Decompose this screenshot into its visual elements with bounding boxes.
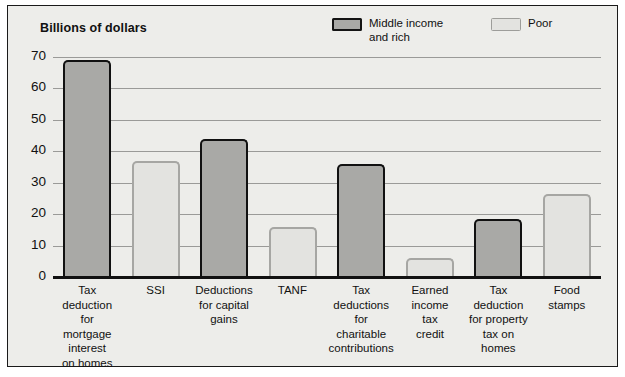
- legend-label-poor: Poor: [528, 17, 552, 31]
- bar[interactable]: [337, 164, 385, 277]
- bar-slot: [464, 57, 533, 277]
- x-axis-category-labels: Taxdeductionfor mortgageintereston homes…: [53, 283, 601, 370]
- legend-swatch-icon-middle-income-and-rich: [332, 18, 362, 31]
- y-tick-label-10: 10: [12, 237, 46, 252]
- bar-slot: [122, 57, 191, 277]
- y-tick-label-0: 0: [12, 268, 46, 283]
- bar[interactable]: [474, 219, 522, 277]
- bar-series: [53, 57, 601, 277]
- y-tick-label-60: 60: [12, 79, 46, 94]
- legend-item-middle-income-and-rich: Middle income and rich: [332, 17, 461, 44]
- y-tick-label-50: 50: [12, 111, 46, 126]
- legend-label-middle-income-and-rich: Middle income and rich: [369, 17, 461, 44]
- bar[interactable]: [543, 194, 591, 277]
- x-axis-label: TANF: [258, 283, 326, 370]
- bar[interactable]: [200, 139, 248, 277]
- bar-slot: [327, 57, 396, 277]
- x-axis-label: Taxdeductionfor propertytax onhomes: [464, 283, 532, 370]
- bar-slot: [533, 57, 602, 277]
- x-axis-label: SSI: [121, 283, 189, 370]
- y-tick-label-40: 40: [12, 142, 46, 157]
- x-axis-label: Taxdeductionsforcharitablecontributions: [327, 283, 396, 370]
- y-tick-label-30: 30: [12, 174, 46, 189]
- bar-slot: [396, 57, 465, 277]
- bar[interactable]: [132, 161, 180, 277]
- x-axis-label: Foodstamps: [533, 283, 601, 370]
- x-axis-baseline: [53, 276, 601, 279]
- x-axis-label: Earnedincometaxcredit: [396, 283, 464, 370]
- bar-slot: [190, 57, 259, 277]
- legend-item-poor: Poor: [491, 17, 552, 31]
- x-axis-label: Deductionsfor capitalgains: [190, 283, 258, 370]
- chart-figure: Billions of dollars Middle income and ri…: [0, 0, 625, 377]
- y-tick-label-70: 70: [12, 48, 46, 63]
- y-axis-tick-labels: 010203040506070: [12, 57, 46, 277]
- chart-title: Billions of dollars: [40, 21, 147, 35]
- bar[interactable]: [63, 60, 111, 277]
- chart-legend: Middle income and rich Poor: [332, 17, 552, 44]
- x-axis-label: Taxdeductionfor mortgageintereston homes: [53, 283, 121, 370]
- bar-slot: [53, 57, 122, 277]
- bar[interactable]: [269, 227, 317, 277]
- bar[interactable]: [406, 258, 454, 277]
- bar-slot: [259, 57, 328, 277]
- y-tick-label-20: 20: [12, 205, 46, 220]
- legend-swatch-icon-poor: [491, 18, 521, 31]
